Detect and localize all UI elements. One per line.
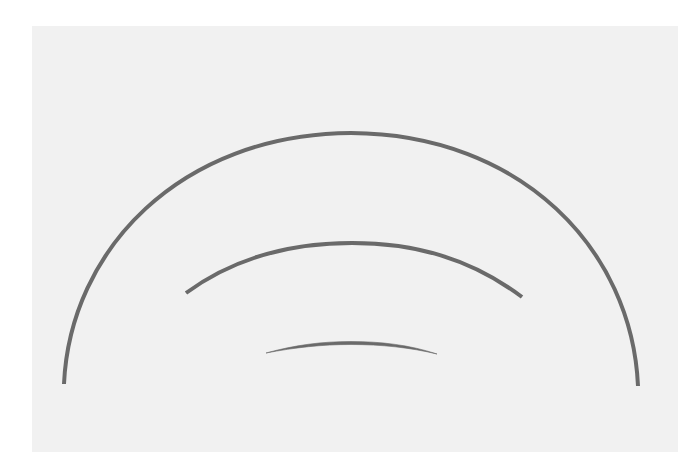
outer-arc xyxy=(64,133,638,386)
concentric-arcs-diagram xyxy=(0,0,698,464)
inner-arc xyxy=(266,342,437,355)
middle-arc xyxy=(186,243,522,297)
